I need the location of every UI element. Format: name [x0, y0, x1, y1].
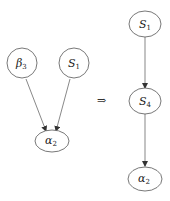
left-graph: β3 S1 α2 — [7, 48, 89, 152]
node-s4: S4 — [129, 88, 161, 114]
edge-beta3-alpha2 — [26, 79, 46, 131]
node-beta3: β3 — [7, 48, 37, 78]
node-s1-right: S1 — [129, 11, 161, 37]
node-alpha2-right: α2 — [128, 167, 162, 191]
node-s1-left: S1 — [59, 48, 89, 78]
edge-s1-alpha2 — [56, 79, 70, 131]
right-graph: S1 S4 α2 — [128, 11, 162, 191]
node-alpha2-left: α2 — [35, 130, 69, 152]
implies-symbol: ⇒ — [97, 94, 106, 107]
diagram-canvas: β3 S1 α2 ⇒ S1 S4 α2 — [0, 0, 170, 201]
